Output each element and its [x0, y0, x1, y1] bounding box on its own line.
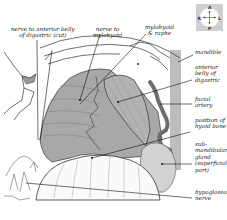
label-mylohyoid-raphe: mylohyoid & raphe — [145, 24, 174, 37]
compass-right: R — [198, 16, 201, 21]
label-submandibular-gland: sub- mandibular gland (superficial part) — [195, 141, 227, 173]
compass-posterior: P — [208, 26, 211, 31]
label-hypoglossal-nerve: hypoglossal nerve — [195, 189, 227, 202]
label-mandible: mandible — [195, 49, 221, 55]
anatomy-diagram: A P R L nerve to anterior belly of digas… — [0, 0, 227, 220]
label-hyoid-bone: position of hyoid bone — [195, 117, 226, 130]
compass-anterior: A — [208, 5, 211, 10]
label-nerve-to-anterior-belly: nerve to anterior belly of digastric (cu… — [11, 26, 75, 39]
label-facial-artery: facial artery — [195, 96, 212, 109]
label-anterior-belly-digastric: anterior belly of digastric — [195, 64, 220, 83]
lower-left-fragments — [4, 156, 38, 200]
compass-left: L — [218, 16, 221, 21]
label-nerve-to-mylohyoid: nerve to mylohyoid — [93, 26, 122, 39]
orientation-compass: A P R L — [196, 4, 223, 31]
